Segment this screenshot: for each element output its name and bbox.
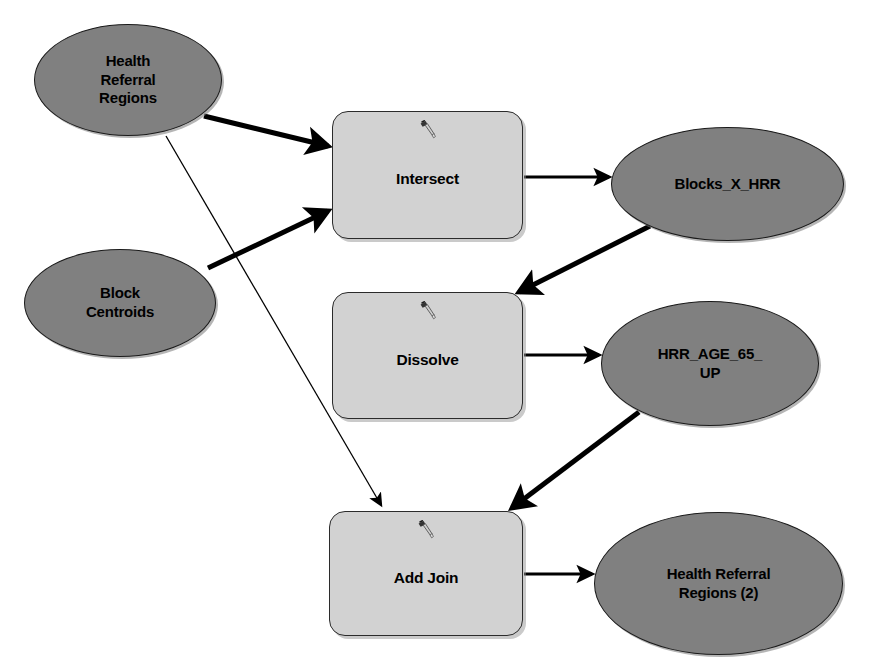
node-block-centroids[interactable]: Block Centroids [24, 249, 216, 357]
node-label: Block Centroids [80, 284, 160, 322]
node-label: Health Referral Regions (2) [661, 565, 777, 603]
hammer-tool-icon [417, 119, 439, 141]
connector-blockcentroids-to-intersect[interactable] [208, 211, 328, 268]
node-label: Dissolve [390, 350, 464, 370]
connector-hrr-to-intersect[interactable] [204, 116, 328, 146]
node-label: Health Referral Regions [93, 52, 163, 109]
hammer-tool-icon [417, 300, 439, 322]
node-hrr-age-65-up[interactable]: HRR_AGE_65_ UP [601, 301, 819, 426]
node-health-referral-regions-2[interactable]: Health Referral Regions (2) [594, 512, 843, 655]
node-health-referral-regions[interactable]: Health Referral Regions [34, 24, 222, 136]
connector-blocks-to-dissolve[interactable] [519, 226, 650, 292]
node-label: Add Join [388, 568, 465, 588]
connector-hrrage-to-addjoin[interactable] [512, 412, 639, 508]
node-label: Intersect [390, 169, 465, 189]
node-label: HRR_AGE_65_ UP [652, 345, 769, 383]
node-intersect[interactable]: Intersect [332, 111, 523, 239]
node-label: Blocks_X_HRR [669, 175, 787, 194]
node-add-join[interactable]: Add Join [329, 511, 523, 636]
node-dissolve[interactable]: Dissolve [332, 292, 523, 419]
hammer-tool-icon [415, 519, 437, 541]
model-diagram-canvas: Health Referral Regions Block Centroids … [0, 0, 871, 669]
node-blocks-x-hrr[interactable]: Blocks_X_HRR [611, 127, 844, 241]
